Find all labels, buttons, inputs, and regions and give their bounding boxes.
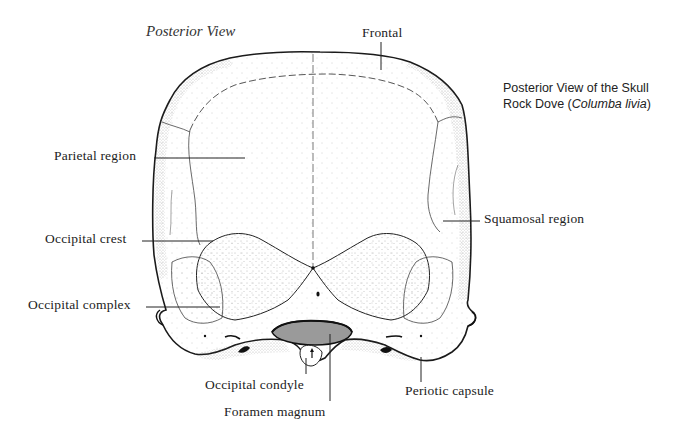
caption-line-2: Rock Dove (Columba livia) [503, 96, 651, 112]
species-name: Columba livia [572, 97, 647, 111]
label-parietal-region: Parietal region [54, 149, 136, 163]
occipital-condyle-shape [300, 345, 322, 366]
view-title: Posterior View [146, 24, 235, 39]
caption-line-1: Posterior View of the Skull [503, 80, 651, 96]
skull-diagram: Posterior View Posterior View of the Sku… [0, 0, 682, 436]
label-periotic-capsule: Periotic capsule [405, 384, 494, 398]
label-frontal: Frontal [362, 26, 402, 40]
label-squamosal-region: Squamosal region [484, 212, 584, 226]
figure-caption: Posterior View of the Skull Rock Dove (C… [503, 80, 651, 112]
label-occipital-condyle: Occipital condyle [205, 378, 304, 392]
label-occipital-crest: Occipital crest [45, 232, 126, 246]
label-foramen-magnum: Foramen magnum [224, 405, 325, 419]
label-occipital-complex: Occipital complex [28, 298, 131, 312]
